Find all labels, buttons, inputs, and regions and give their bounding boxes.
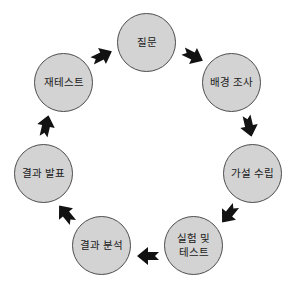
node-form-hypothesis-label: 가설 수립 [225,167,281,180]
arrow-icon-report-results-to-retest [35,113,57,138]
node-background-research: 배경 조사 [202,53,261,112]
node-analyze-results-label: 결과 분석 [74,239,130,252]
node-report-results-label: 결과 발표 [16,167,72,180]
arrow-icon-question-to-background-research [179,43,207,69]
node-background-research-label: 배경 조사 [204,76,260,89]
arrow-icon-retest-to-question [88,43,116,69]
node-report-results: 결과 발표 [14,144,73,203]
node-experiment-and-test: 실험 및 테스트 [164,216,223,275]
node-analyze-results: 결과 분석 [72,216,131,275]
arrow-icon-experiment-and-test-to-analyze-results [137,247,159,265]
arrow-icon-background-research-to-form-hypothesis [238,113,260,138]
node-experiment-and-test-label: 실험 및 테스트 [166,232,222,258]
node-retest: 재테스트 [34,53,93,112]
node-question-label: 질문 [119,36,175,49]
node-form-hypothesis: 가설 수립 [223,144,282,203]
node-retest-label: 재테스트 [36,76,92,89]
cycle-diagram: 질문 배경 조사 가설 수립 실험 및 테스트 결과 분석 결과 발표 재테스트 [0,0,289,297]
arrow-icon-form-hypothesis-to-experiment-and-test [215,200,243,228]
node-question: 질문 [117,13,176,72]
arrow-icon-analyze-results-to-report-results [52,200,80,228]
